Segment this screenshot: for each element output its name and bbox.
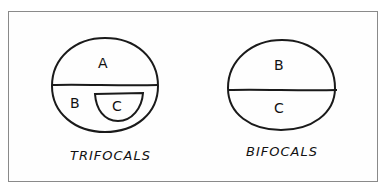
bifocal-zone-b-label: B [274, 57, 284, 73]
trifocal-divider-line [52, 85, 158, 86]
bifocal-lens-outline [228, 40, 335, 130]
trifocal-lens: A B C TRIFOCALS [52, 38, 158, 163]
trifocal-zone-c-label: C [112, 98, 122, 114]
lens-diagram: A B C TRIFOCALS B C BIFOCALS [0, 0, 387, 194]
bifocals-caption: BIFOCALS [246, 144, 318, 159]
trifocals-caption: TRIFOCALS [70, 148, 151, 163]
bifocal-zone-c-label: C [274, 100, 284, 116]
trifocal-zone-a-label: A [98, 55, 108, 71]
bifocal-divider-line [228, 90, 337, 91]
bifocal-lens: B C BIFOCALS [228, 40, 337, 159]
trifocal-zone-b-label: B [70, 95, 80, 111]
